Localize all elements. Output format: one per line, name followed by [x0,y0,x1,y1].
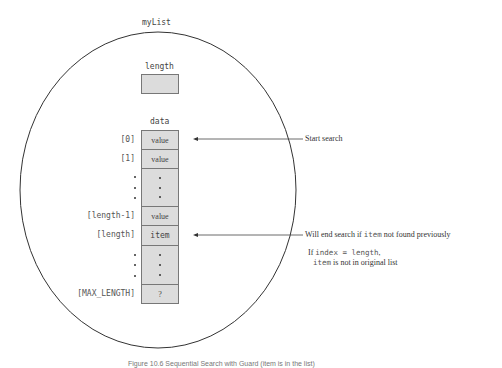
start-search-annotation: Start search [305,134,343,143]
array-cell-max-length: ? [141,284,179,304]
ellipsis-dot [134,197,136,199]
ellipsis-dot [159,196,161,198]
note-line1-suffix: , [379,248,381,257]
ellipsis-dot [159,264,161,266]
array-cell-length-minus-1: value [141,206,179,226]
array-cell-ellipsis-2 [141,245,179,285]
index-label-1: [1] [121,154,135,163]
index-label-length: [length] [96,230,135,239]
ellipsis-dot [134,176,136,178]
length-field-label: length [145,62,174,71]
figure-caption: Figure 10.6 Sequential Search with Guard… [128,360,315,367]
array-cell-length: item [141,225,179,246]
ellipsis-dot [134,187,136,189]
length-field-box [141,74,179,94]
array-cell-0: value [141,130,179,150]
ellipsis-dot [134,264,136,266]
ellipsis-dot [159,274,161,276]
end-annotation-text-before: Will end search if [305,230,364,239]
ellipsis-dot [159,254,161,256]
data-field-label: data [150,117,169,126]
start-arrowhead-icon [193,137,198,141]
end-search-annotation: Will end search if item not found previo… [305,230,451,239]
index-label-0: [0] [121,135,135,144]
diagram-canvas: myList length data value value value ite… [0,0,502,368]
note-line2-text: is not in original list [331,258,397,267]
note-line1-code: index = length [315,248,378,257]
index-label-max-length: [MAX_LENGTH] [77,289,135,298]
ellipsis-dot [159,177,161,179]
end-annotation-code: item [364,230,382,239]
note-line-1: If index = length, [308,248,381,257]
note-line-2: item is not in original list [313,258,398,267]
end-annotation-text-after: not found previously [382,230,451,239]
note-line2-code: item [313,258,331,267]
array-cell-1: value [141,149,179,169]
ellipsis-dot [134,254,136,256]
ellipsis-dot [159,187,161,189]
end-arrowhead-icon [193,233,198,237]
array-cell-ellipsis-1 [141,168,179,207]
struct-name: myList [142,18,171,27]
diagram-shapes [0,0,502,368]
index-ellipsis-2 [132,245,138,285]
index-label-length-minus-1: [length-1] [87,211,135,220]
index-ellipsis-1 [132,168,138,207]
ellipsis-dot [134,275,136,277]
